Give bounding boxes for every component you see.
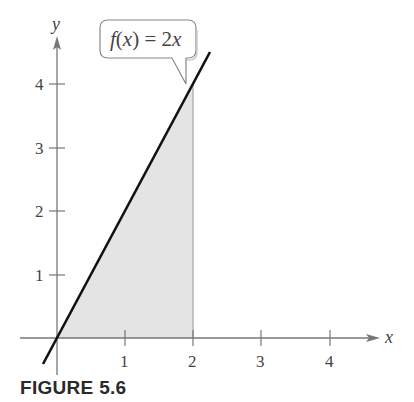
- y-tick-label: 2: [35, 202, 44, 221]
- x-axis-label: x: [384, 327, 393, 347]
- x-tick-label: 2: [188, 352, 197, 371]
- y-tick-label: 4: [35, 75, 44, 94]
- y-tick-label: 3: [35, 139, 44, 158]
- y-axis-label: y: [50, 14, 60, 34]
- figure-caption: FIGURE 5.6: [20, 377, 126, 399]
- x-tick-label: 1: [120, 352, 129, 371]
- function-callout: f(x) = 2x: [100, 20, 197, 84]
- y-tick-label: 1: [35, 266, 44, 285]
- function-label: f(x) = 2x: [110, 27, 182, 51]
- x-tick-label: 3: [256, 352, 265, 371]
- x-tick-label: 4: [325, 352, 334, 371]
- figure: y x 1 2 3 4 1 2 3 4 f(x) = 2x: [0, 0, 414, 402]
